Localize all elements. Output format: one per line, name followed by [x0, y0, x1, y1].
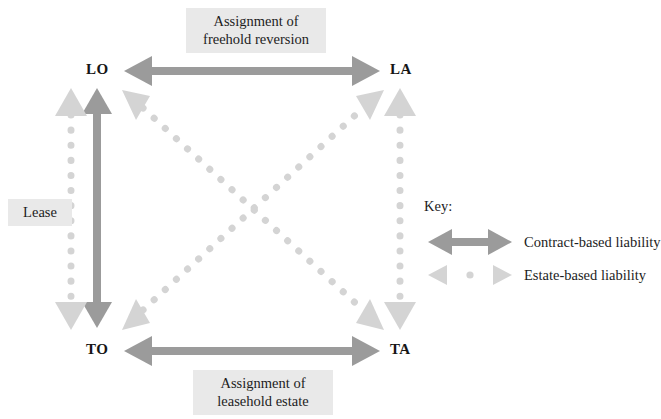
key-title: Key:: [424, 198, 452, 215]
node-label-lo: LO: [86, 61, 108, 78]
edge-la-ta-estate: [384, 88, 416, 330]
key-label-estate-based-liability: Estate-based liability: [524, 267, 646, 284]
edge-to-ta-contract: [124, 336, 380, 366]
node-label-to: TO: [86, 341, 108, 358]
key-label-contract-based-liability: Contract-based liability: [524, 234, 661, 251]
node-label-ta: TA: [390, 341, 411, 358]
label-lease: Lease: [8, 199, 72, 226]
edge-lo-to-contract: [82, 88, 112, 328]
node-label-la: LA: [390, 61, 412, 78]
key-estate-arrow-icon: [428, 265, 512, 285]
key-contract-arrow-icon: [428, 229, 512, 255]
edge-lo-la-contract: [124, 56, 380, 86]
label-assignment-leasehold-estate: Assignment of leasehold estate: [193, 370, 333, 415]
label-assignment-freehold-reversion: Assignment of freehold reversion: [186, 8, 326, 53]
